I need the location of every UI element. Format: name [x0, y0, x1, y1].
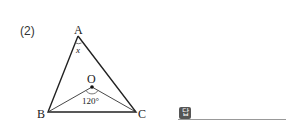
angle-arc-o: [86, 91, 98, 94]
label-a: A: [74, 23, 83, 37]
label-c: C: [138, 107, 146, 121]
label-o: O: [87, 72, 96, 86]
label-angle-120: 120°: [82, 96, 100, 106]
angle-arc-a: [76, 43, 82, 44]
label-b: B: [37, 107, 45, 121]
answer-line[interactable]: [178, 119, 286, 120]
label-angle-x: x: [75, 45, 80, 55]
answer-icon: 답: [179, 107, 191, 119]
triangle-figure: A B C O x 120°: [0, 0, 303, 136]
